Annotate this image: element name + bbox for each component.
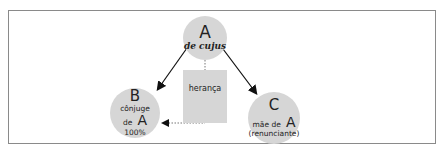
node-c-line2: (renunciante): [249, 130, 300, 138]
node-b-line3: 100%: [124, 129, 145, 137]
heranca-label: herança: [189, 84, 222, 93]
node-a-label: de cujus: [184, 42, 226, 51]
node-a-letter: A: [199, 24, 211, 42]
node-c-letter: C: [269, 98, 279, 114]
arrow-a-to-c: [223, 49, 256, 93]
node-b-letter2: A: [137, 112, 147, 128]
node-c-line1: mãe de: [253, 120, 281, 129]
node-a: A de cujus: [183, 16, 227, 60]
node-b-line2: de: [123, 118, 132, 127]
node-b-letter: B: [130, 89, 140, 105]
node-b: B cônjuge de A 100%: [110, 88, 160, 138]
node-c-letter2: A: [286, 114, 296, 130]
node-c: C mãe de A (renunciante): [248, 92, 300, 144]
heranca-box: herança: [183, 70, 227, 123]
